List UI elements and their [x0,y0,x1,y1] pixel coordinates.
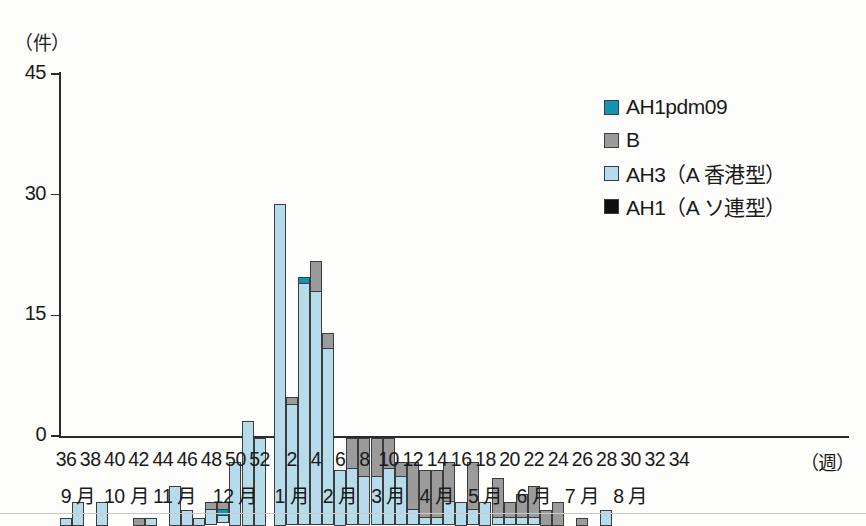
bar-segment-ah3 [504,517,516,525]
legend-swatch-icon-b [604,133,619,148]
x-tick-label-week-34: 34 [662,448,696,471]
bar-segment-b [322,333,334,349]
legend-item-b: B [604,125,786,155]
y-tick-mark [51,315,60,317]
y-axis-unit-label: （件） [14,28,70,55]
y-tick-label: 30 [6,182,46,205]
bar-week-47 [193,518,205,526]
bar-segment-b [310,261,322,293]
bar-segment-ah3 [205,509,217,525]
bar-segment-ah3 [419,517,431,525]
bar-segment-ah3 [431,517,443,525]
chart-legend: AH1pdm09BAH3（A 香港型）AH1（A ソ連型） [604,92,786,224]
bar-week-36 [60,518,72,526]
influenza-weekly-bar-chart: （件） 0153045 3638404244464850522468101214… [0,0,866,526]
bar-segment-ah3 [467,509,479,525]
bar-segment-ah3 [217,515,229,523]
bar-segment-ah3 [492,517,504,525]
x-month-label: 11 月 [140,480,210,509]
legend-label: AH3（A 香港型） [626,158,786,188]
bar-week-43 [145,518,157,526]
legend-label: AH1（A ソ連型） [626,191,786,221]
legend-swatch-icon-pdm [604,100,619,115]
x-axis-line [59,436,849,438]
bar-segment-ah3 [242,421,254,526]
legend-label: B [626,128,640,152]
bar-week-42 [133,518,145,526]
bar-segment-b [576,518,588,526]
y-tick-mark [51,435,60,437]
y-axis-line [59,72,61,438]
x-tick-label-week-52: 52 [243,448,277,471]
x-axis-unit-label: （週） [800,448,854,475]
legend-item-ah1: AH1（A ソ連型） [604,191,786,221]
bar-week-51 [242,421,254,526]
bar-week-26 [576,518,588,526]
bar-segment-ah3 [274,204,286,526]
legend-label: AH1pdm09 [626,95,727,119]
y-tick-mark [51,73,60,75]
bar-segment-ah3 [516,517,528,525]
y-tick-mark [51,194,60,196]
legend-swatch-icon-ah3 [604,166,619,181]
y-tick-label: 45 [6,61,46,84]
legend-item-ah3: AH3（A 香港型） [604,158,786,188]
page-divider-rule [0,513,866,514]
bar-segment-ah3 [60,518,72,526]
bar-segment-ah3 [145,518,157,526]
legend-item-pdm: AH1pdm09 [604,92,786,122]
bar-segment-ah3 [528,517,540,525]
legend-swatch-icon-ah1 [604,199,619,214]
x-month-label: 8 月 [596,480,666,509]
y-tick-label: 0 [6,423,46,446]
bar-segment-ah3 [193,518,205,526]
bar-week-1 [274,204,286,526]
bar-segment-ah3 [407,509,419,525]
bar-segment-b [133,518,145,526]
y-tick-label: 15 [6,302,46,325]
